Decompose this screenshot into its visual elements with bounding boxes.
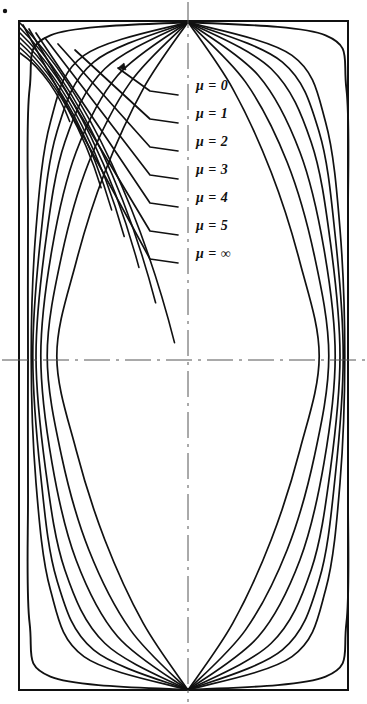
curve--3-left (36, 22, 188, 690)
figure-canvas: μ = 0μ = 1μ = 2μ = 3μ = 4μ = 5μ = ∞ (0, 0, 367, 704)
curve--2-left (41, 22, 188, 690)
curve-label-2: μ = 2 (196, 134, 228, 150)
curve--∞-left (27, 22, 188, 690)
curve-label-3: μ = 3 (196, 162, 228, 178)
curve-label-1: μ = 1 (196, 106, 228, 122)
plot-frame (19, 21, 348, 690)
curve-label-5: μ = 5 (196, 218, 228, 234)
curve--3-right (188, 22, 340, 690)
curve-label-4: μ = 4 (196, 190, 228, 206)
curve-label-6: μ = ∞ (196, 246, 231, 262)
curve--∞-right (188, 22, 349, 690)
curve-family-svg (0, 0, 367, 704)
curve--1-right (188, 22, 329, 690)
curve-label-0: μ = 0 (196, 78, 228, 94)
registration-dot (3, 9, 7, 13)
